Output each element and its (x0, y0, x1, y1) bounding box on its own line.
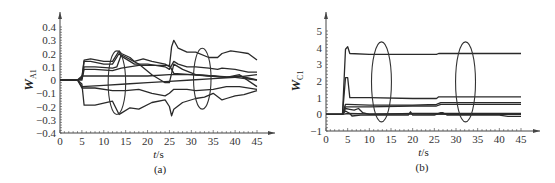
x-tick-label: 0 (323, 133, 329, 145)
y-tick-label: −0.2 (36, 101, 56, 113)
x-tick-label: 45 (516, 133, 528, 145)
y-tick-label: 0 (317, 108, 323, 120)
y-tick-label: 0.2 (42, 48, 56, 60)
y-tick-label: 1 (317, 92, 323, 104)
series-line (60, 80, 257, 116)
x-tick-label: 15 (386, 133, 398, 145)
x-axis-label: t/s (153, 148, 163, 160)
highlight-ellipse (108, 51, 126, 115)
x-tick-label: 35 (208, 135, 220, 147)
y-tick-label: 0.1 (42, 61, 56, 73)
x-tick-label: 0 (57, 135, 63, 147)
y-tick-label: 3 (317, 58, 323, 70)
x-tick-label: 10 (364, 133, 376, 145)
x-tick-label: 25 (429, 133, 441, 145)
y-axis-arrow-icon (58, 12, 62, 19)
panel-caption: (b) (416, 161, 429, 174)
y-tick-label: 0 (51, 74, 57, 86)
x-axis-arrow-icon (533, 129, 540, 133)
x-tick-label: 10 (98, 135, 110, 147)
y-tick-label: −0.1 (36, 87, 56, 99)
y-tick-label: −0.3 (36, 114, 56, 126)
panel-caption: (a) (154, 163, 167, 176)
y-tick-label: 0.4 (42, 21, 56, 33)
chart-b: 051015202530354045543210−1WC1t/s(b) (288, 12, 540, 174)
x-tick-label: 45 (252, 135, 264, 147)
x-tick-label: 5 (79, 135, 85, 147)
x-tick-label: 40 (494, 133, 506, 145)
y-tick-label: −1 (310, 125, 322, 137)
x-tick-label: 20 (407, 133, 419, 145)
x-axis-label: t/s (418, 146, 428, 158)
series-line (326, 78, 521, 115)
y-tick-label: 2 (317, 75, 323, 87)
x-tick-label: 30 (186, 135, 198, 147)
y-tick-label: 5 (317, 25, 323, 37)
y-tick-label: 0.3 (42, 34, 56, 46)
x-tick-label: 30 (451, 133, 463, 145)
y-axis-arrow-icon (324, 12, 328, 19)
x-tick-label: 20 (142, 135, 154, 147)
y-axis-label: WC1 (288, 71, 305, 92)
y-axis-label: WA1 (21, 69, 38, 90)
x-axis-arrow-icon (268, 131, 275, 135)
y-tick-label: −0.4 (36, 127, 56, 139)
y-tick-label: 4 (317, 42, 323, 54)
x-tick-label: 35 (472, 133, 484, 145)
x-tick-label: 25 (164, 135, 176, 147)
x-tick-label: 40 (230, 135, 242, 147)
chart-a: 0510152025303540450.40.30.20.10−0.1−0.2−… (21, 12, 275, 176)
series-line (60, 40, 257, 80)
figure: 0510152025303540450.40.30.20.10−0.1−0.2−… (0, 0, 555, 183)
x-tick-label: 5 (345, 133, 351, 145)
x-tick-label: 15 (120, 135, 132, 147)
